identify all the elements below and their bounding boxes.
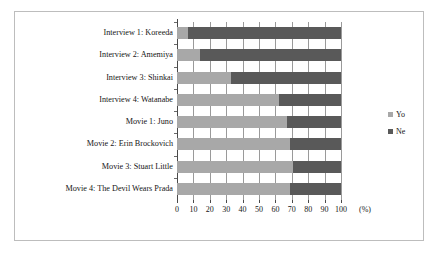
chart-legend: YoNe <box>388 110 405 144</box>
y-axis-tick <box>174 22 177 23</box>
stacked-bar <box>177 72 341 84</box>
x-axis-tick-mark <box>177 200 178 203</box>
bar-row <box>177 22 341 44</box>
bar-row <box>177 133 341 155</box>
y-axis-tick <box>174 89 177 90</box>
bar-segment-yo <box>177 116 287 128</box>
stacked-bar <box>177 161 341 173</box>
category-label: Interview 2: Amemiya <box>99 50 173 60</box>
x-tick-label: 100 <box>331 205 351 214</box>
y-axis-tick <box>174 44 177 45</box>
bar-segment-ne <box>279 94 341 106</box>
bar-row <box>177 178 341 200</box>
bar-row <box>177 89 341 111</box>
x-axis-unit-label: (%) <box>359 205 371 214</box>
x-axis-tick-mark <box>325 200 326 203</box>
stacked-bar <box>177 138 341 150</box>
x-axis-tick-mark <box>243 200 244 203</box>
x-axis-tick-mark <box>193 200 194 203</box>
bar-segment-yo <box>177 94 279 106</box>
bar-segment-ne <box>290 138 341 150</box>
stacked-bar <box>177 27 341 39</box>
x-axis-tick-mark <box>292 200 293 203</box>
stacked-bar <box>177 49 341 61</box>
bar-segment-yo <box>177 161 293 173</box>
bar-segment-ne <box>231 72 341 84</box>
stacked-bar <box>177 183 341 195</box>
plot-area <box>177 22 341 200</box>
bar-segment-yo <box>177 72 231 84</box>
bar-segment-ne <box>200 49 341 61</box>
bar-segment-yo <box>177 138 290 150</box>
bar-row <box>177 111 341 133</box>
y-axis-tick <box>174 133 177 134</box>
stacked-bar <box>177 94 341 106</box>
category-label: Movie 2: Erin Brockovich <box>87 139 173 149</box>
legend-swatch-icon <box>388 112 393 117</box>
stacked-bar <box>177 116 341 128</box>
bar-row <box>177 156 341 178</box>
legend-item-yo: Yo <box>388 110 405 119</box>
y-axis-tick <box>174 111 177 112</box>
x-axis-tick-mark <box>226 200 227 203</box>
gridline-100 <box>341 22 342 200</box>
category-label: Interview 1: Koreeda <box>103 28 173 38</box>
x-axis-tick-mark <box>308 200 309 203</box>
x-axis-tick-mark <box>210 200 211 203</box>
x-axis-tick-mark <box>341 200 342 203</box>
legend-label: Yo <box>396 110 405 119</box>
legend-swatch-icon <box>388 129 393 134</box>
category-label: Movie 1: Juno <box>126 117 173 127</box>
bar-segment-yo <box>177 183 290 195</box>
category-label: Interview 3: Shinkai <box>106 73 173 83</box>
x-axis-tick-mark <box>259 200 260 203</box>
bar-segment-yo <box>177 27 188 39</box>
y-axis-tick <box>174 67 177 68</box>
legend-label: Ne <box>396 127 405 136</box>
bar-segment-ne <box>293 161 341 173</box>
bar-segment-ne <box>188 27 341 39</box>
category-label: Movie 3: Stuart Little <box>102 162 173 172</box>
stacked-bar-chart: Interview 1: KoreedaInterview 2: Amemiya… <box>0 0 439 255</box>
legend-item-ne: Ne <box>388 127 405 136</box>
bar-row <box>177 44 341 66</box>
x-axis-tick-mark <box>275 200 276 203</box>
bar-segment-ne <box>290 183 341 195</box>
bar-segment-yo <box>177 49 200 61</box>
y-axis-tick <box>174 178 177 179</box>
category-label: Movie 4: The Devil Wears Prada <box>66 184 174 194</box>
y-axis-tick <box>174 156 177 157</box>
bar-row <box>177 67 341 89</box>
bar-segment-ne <box>287 116 341 128</box>
category-label: Interview 4: Watanabe <box>99 95 173 105</box>
